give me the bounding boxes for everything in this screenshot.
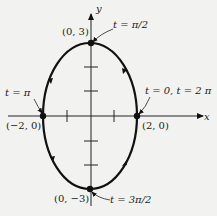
param-left: t = π — [5, 88, 30, 98]
point-top — [88, 40, 94, 46]
param-bottom: t = 3π/2 — [110, 195, 151, 205]
x-axis-label: x — [204, 112, 210, 122]
point-bottom — [87, 186, 93, 192]
coord-left: (−2, 0) — [6, 121, 41, 131]
point-left — [40, 113, 46, 119]
coord-right: (2, 0) — [142, 121, 169, 131]
param-right: t = 0, t = 2 π — [145, 86, 211, 96]
param-top: t = π/2 — [113, 20, 148, 30]
ellipse-diagram — [0, 0, 217, 216]
leader-bottom — [92, 192, 110, 200]
coord-top: (0, 3) — [62, 27, 89, 37]
leader-left — [34, 99, 42, 113]
leader-right — [139, 97, 150, 114]
leader-top — [93, 29, 113, 42]
y-axis-label: y — [96, 4, 102, 14]
coord-bottom: (0, −3) — [54, 194, 89, 204]
